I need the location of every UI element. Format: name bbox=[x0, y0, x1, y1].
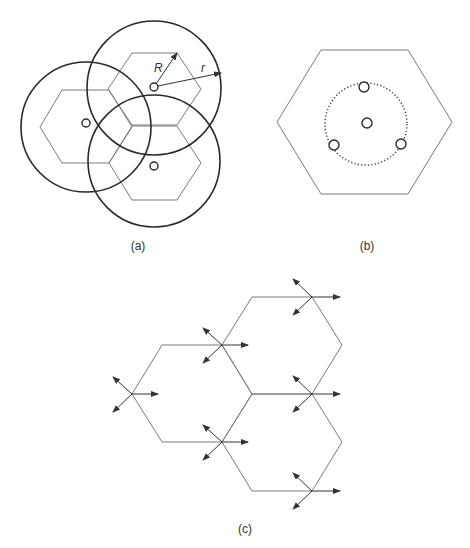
site-top bbox=[359, 82, 369, 92]
caption-a: (a) bbox=[131, 239, 146, 253]
caption-b: (b) bbox=[360, 239, 375, 253]
base-station-top bbox=[150, 83, 158, 91]
panel-a: R r (a) bbox=[21, 21, 221, 253]
base-station-bottom bbox=[150, 162, 158, 170]
base-station-left bbox=[82, 119, 90, 127]
label-R: R bbox=[154, 61, 163, 75]
site-right bbox=[396, 139, 406, 149]
site-center bbox=[362, 118, 372, 128]
caption-c: (c) bbox=[238, 522, 252, 536]
sector-antenna-1 bbox=[113, 377, 158, 412]
panel-c: (c) bbox=[113, 279, 342, 536]
site-left bbox=[329, 140, 339, 150]
radius-r-arrow bbox=[158, 73, 221, 86]
panel-b: (b) bbox=[277, 50, 452, 253]
label-r: r bbox=[201, 61, 206, 75]
figure-canvas: R r (a) (b) bbox=[0, 0, 470, 548]
